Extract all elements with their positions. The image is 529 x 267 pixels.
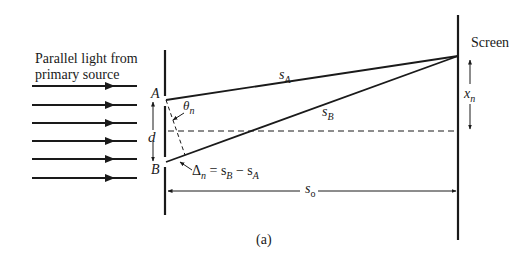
arrowhead-icon xyxy=(105,101,115,109)
arrowhead-icon xyxy=(105,155,115,163)
source-label-line1: Parallel light from xyxy=(35,52,138,66)
delta-pointer-arrow xyxy=(180,162,192,170)
separation-d-label: d xyxy=(148,130,156,145)
path-difference-label: Δn = sB − sA xyxy=(192,164,259,178)
incident-rays xyxy=(32,86,137,178)
figure-caption: (a) xyxy=(256,233,272,247)
fringe-position-label: xn xyxy=(464,87,475,101)
arrowhead-icon xyxy=(105,82,115,90)
double-slit-diagram xyxy=(0,0,529,267)
source-label-line2: primary source xyxy=(35,68,119,82)
slit-b-label: B xyxy=(151,163,160,177)
incident-ray-arrowheads xyxy=(105,82,115,182)
path-sa-label: sA xyxy=(279,68,291,82)
arrowhead-icon xyxy=(105,174,115,182)
slit-a-label: A xyxy=(151,87,160,101)
path-sa-line xyxy=(166,56,458,100)
theta-pointer-arrow xyxy=(173,113,184,120)
arrowhead-icon xyxy=(105,119,115,127)
angle-theta-label: θn xyxy=(183,99,194,112)
path-sb-label: sB xyxy=(322,105,334,119)
screen-distance-label: so xyxy=(305,182,315,196)
screen-label: Screen xyxy=(471,36,509,50)
arrowhead-icon xyxy=(105,137,115,145)
path-sb-line xyxy=(166,56,458,162)
